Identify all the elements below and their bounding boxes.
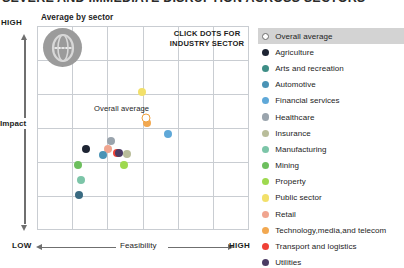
legend-item-label: Agriculture — [275, 48, 314, 57]
legend-row[interactable]: Mining — [258, 158, 404, 174]
legend-item-label: Overall average — [275, 32, 332, 41]
chart-page: SEVERE AND IMMEDIATE DISRUPTION ACROSS S… — [0, 0, 404, 268]
data-point[interactable] — [107, 137, 115, 145]
legend-swatch-icon — [262, 227, 269, 234]
sector-legend: Overall averageAgricultureArts and recre… — [258, 28, 404, 268]
legend-row[interactable]: Utilities — [258, 255, 404, 268]
legend-swatch-icon — [262, 194, 269, 201]
legend-swatch-icon — [262, 130, 269, 137]
legend-item-label: Retail — [275, 210, 296, 219]
legend-item-label: Public sector — [275, 193, 321, 202]
click-dots-note: CLICK DOTS FOR INDUSTRY SECTOR — [168, 29, 246, 49]
legend-swatch-icon — [262, 146, 269, 153]
legend-row[interactable]: Financial services — [258, 93, 404, 109]
legend-swatch-icon — [262, 259, 269, 266]
legend-row[interactable]: Insurance — [258, 125, 404, 141]
page-headline-strip: SEVERE AND IMMEDIATE DISRUPTION ACROSS S… — [0, 0, 404, 9]
data-point[interactable] — [82, 145, 90, 153]
overall-average-label: Overall average — [94, 104, 149, 113]
legend-item-label: Technology,media,and telecom — [275, 226, 386, 235]
legend-item-label: Property — [275, 177, 306, 186]
data-point[interactable] — [77, 176, 85, 184]
legend-item-label: Utilities — [275, 258, 301, 267]
gridline-horizontal — [37, 162, 249, 163]
gridline-horizontal — [37, 26, 249, 27]
legend-row[interactable]: Automotive — [258, 77, 404, 93]
legend-row[interactable]: Retail — [258, 206, 404, 222]
data-point[interactable] — [164, 130, 172, 138]
chart-title: Average by sector — [41, 13, 113, 22]
page-headline: SEVERE AND IMMEDIATE DISRUPTION ACROSS S… — [2, 0, 365, 5]
legend-swatch-icon — [262, 97, 269, 104]
legend-swatch-icon — [262, 211, 269, 218]
gridline-horizontal — [37, 128, 249, 129]
legend-swatch-icon — [262, 178, 269, 185]
legend-item-label: Manufacturing — [275, 145, 326, 154]
legend-swatch-icon — [262, 33, 269, 40]
y-axis-arrow-down-icon — [21, 225, 27, 231]
legend-row[interactable]: Public sector — [258, 190, 404, 206]
plot-area: CLICK DOTS FOR INDUSTRY SECTOR Overall a… — [37, 26, 249, 230]
legend-swatch-icon — [262, 162, 269, 169]
legend-item-label: Healthcare — [275, 113, 314, 122]
y-axis: HIGH Impact — [0, 26, 37, 230]
legend-swatch-icon — [262, 49, 269, 56]
legend-row[interactable]: Transport and logistics — [258, 238, 404, 254]
legend-item-label: Transport and logistics — [275, 242, 356, 251]
legend-swatch-icon — [262, 243, 269, 250]
gridline-horizontal — [37, 229, 249, 230]
legend-row[interactable]: Manufacturing — [258, 141, 404, 157]
x-axis-title: Feasibility — [120, 241, 157, 250]
data-point[interactable] — [141, 114, 150, 123]
legend-row[interactable]: Agriculture — [258, 44, 404, 60]
x-axis-low-label: LOW — [12, 241, 32, 250]
y-axis-title: Impact — [0, 118, 28, 129]
legend-item-label: Arts and recreation — [275, 64, 344, 73]
legend-swatch-icon — [262, 113, 269, 120]
data-point[interactable] — [74, 161, 82, 169]
legend-swatch-icon — [262, 65, 269, 72]
data-point[interactable] — [75, 191, 83, 199]
legend-item-label: Financial services — [275, 96, 339, 105]
legend-row[interactable]: Technology,media,and telecom — [258, 222, 404, 238]
data-point[interactable] — [123, 150, 131, 158]
legend-item-label: Automotive — [275, 80, 316, 89]
x-axis-line-right — [168, 247, 228, 248]
data-point[interactable] — [120, 161, 128, 169]
legend-swatch-icon — [262, 81, 269, 88]
y-axis-high-label: HIGH — [1, 18, 22, 27]
y-axis-line — [24, 40, 26, 224]
x-axis-line-left — [42, 247, 116, 248]
legend-item-label: Mining — [275, 161, 299, 170]
data-point[interactable] — [99, 151, 107, 159]
gridline-horizontal — [37, 196, 249, 197]
x-axis: LOW Feasibility HIGH — [0, 236, 260, 258]
legend-row[interactable]: Property — [258, 174, 404, 190]
legend-row[interactable]: Arts and recreation — [258, 60, 404, 76]
data-point[interactable] — [138, 88, 146, 96]
brand-watermark-icon — [43, 28, 82, 67]
legend-item-label: Insurance — [275, 129, 311, 138]
x-axis-high-label: HIGH — [229, 241, 250, 250]
legend-row-overall-average[interactable]: Overall average — [258, 28, 404, 44]
legend-row[interactable]: Healthcare — [258, 109, 404, 125]
